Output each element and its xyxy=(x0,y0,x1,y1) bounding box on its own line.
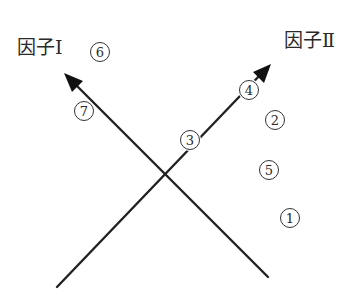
item-5-number: 5 xyxy=(265,164,273,177)
item-2: 2 xyxy=(265,110,285,130)
item-5: 5 xyxy=(259,160,279,180)
factor1-label: 因子Ⅰ xyxy=(17,36,63,58)
item-6: 6 xyxy=(90,42,110,62)
item-3: 3 xyxy=(180,130,200,150)
item-7-number: 7 xyxy=(80,105,88,118)
item-4: 4 xyxy=(239,80,259,100)
factor2-label: 因子Ⅱ xyxy=(284,29,335,51)
item-2-number: 2 xyxy=(271,114,279,127)
item-7: 7 xyxy=(74,101,94,121)
factor-diagram: 因子Ⅰ 因子Ⅱ 1 2 3 4 5 6 7 xyxy=(0,0,353,307)
item-6-number: 6 xyxy=(96,46,104,59)
item-1: 1 xyxy=(280,208,300,228)
factor1-axis-line xyxy=(73,82,268,277)
item-1-number: 1 xyxy=(286,212,294,225)
item-4-number: 4 xyxy=(245,84,253,97)
item-3-number: 3 xyxy=(186,134,194,147)
